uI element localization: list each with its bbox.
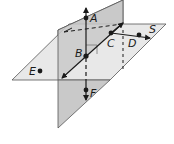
point-a	[84, 16, 89, 21]
label-f: F	[90, 87, 97, 100]
label-e: E	[29, 65, 36, 78]
label-a: A	[89, 12, 98, 25]
label-b: B	[75, 47, 83, 60]
point-c	[109, 31, 114, 36]
vertical-plane-lower	[58, 80, 110, 128]
point-b	[83, 53, 88, 58]
intersecting-planes-diagram: A B C D E F S	[0, 0, 174, 144]
label-c: C	[107, 37, 115, 50]
point-d	[137, 33, 142, 38]
point-f	[84, 88, 89, 93]
point-e	[38, 69, 43, 74]
label-d: D	[128, 37, 136, 50]
label-plane-s: S	[149, 23, 156, 36]
